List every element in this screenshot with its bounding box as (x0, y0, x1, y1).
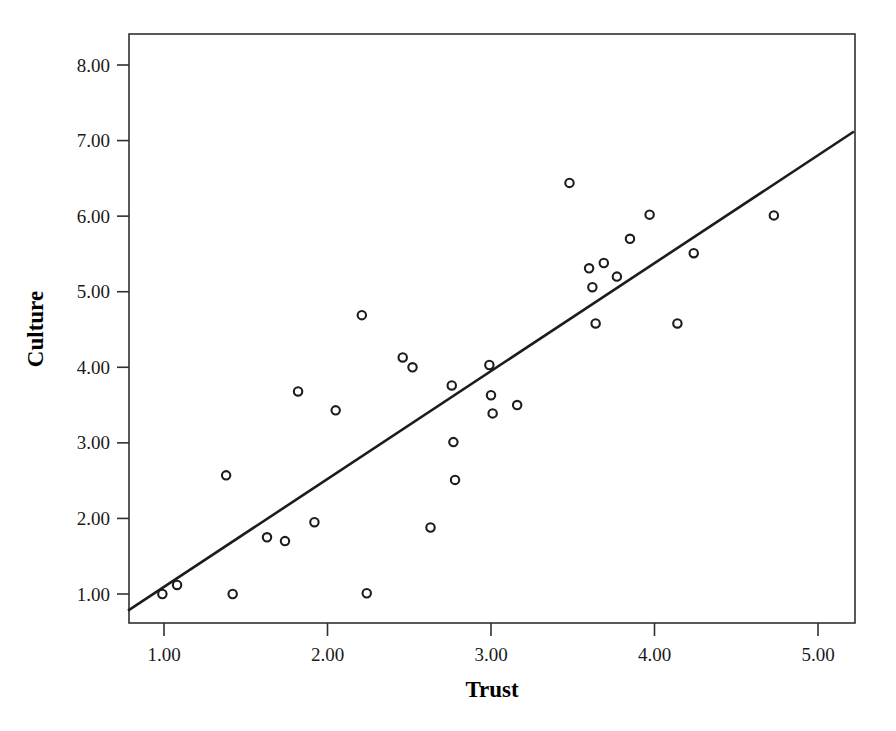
scatter-plot-figure: 1.002.003.004.005.006.007.008.00 1.002.0… (0, 0, 896, 731)
x-axis-tick-label: 4.00 (638, 644, 671, 665)
y-axis-tick-label: 4.00 (77, 357, 110, 378)
y-axis-title: Culture (23, 291, 48, 367)
plot-canvas: 1.002.003.004.005.006.007.008.00 1.002.0… (0, 0, 896, 731)
x-axis-tick-label: 1.00 (147, 644, 180, 665)
y-axis-tick-label: 6.00 (77, 206, 110, 227)
y-axis-tick-label: 5.00 (77, 281, 110, 302)
y-axis-tick-label: 3.00 (77, 432, 110, 453)
y-axis-tick-label: 8.00 (77, 55, 110, 76)
x-axis-tick-label: 5.00 (801, 644, 834, 665)
figure-background (0, 0, 896, 731)
x-axis-title: Trust (465, 677, 519, 702)
x-axis-tick-label: 3.00 (474, 644, 507, 665)
x-axis-tick-label: 2.00 (311, 644, 344, 665)
y-axis-tick-label: 1.00 (77, 584, 110, 605)
y-axis-tick-label: 7.00 (77, 130, 110, 151)
y-axis-tick-label: 2.00 (77, 508, 110, 529)
